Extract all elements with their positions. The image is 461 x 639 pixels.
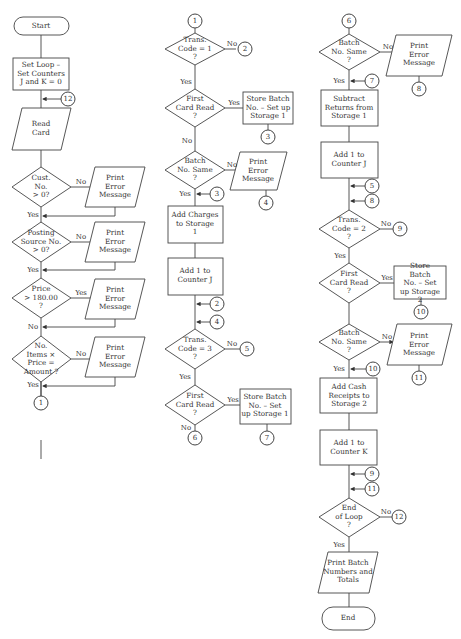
- edge-label: No: [182, 137, 192, 145]
- items-price-label: No. Items × Price = Amount ?: [24, 342, 59, 376]
- print-error-label: Print Error Message: [403, 332, 435, 358]
- edge-label: No: [382, 333, 392, 341]
- connector-6: 6: [188, 431, 203, 446]
- cust-no-label: Cust. No. > 0?: [32, 174, 51, 200]
- end-label: End: [341, 614, 355, 623]
- connector-12: 12: [392, 510, 407, 525]
- add-counter-k-label: Add 1 to Counter K: [330, 439, 367, 456]
- subtract-returns-label: Subtract Returns from Storage 1: [325, 95, 373, 121]
- connector-7: 7: [260, 431, 275, 446]
- edge-label: Yes: [27, 211, 39, 219]
- batch-same-label: Batch No. Same ?: [331, 39, 366, 65]
- edge-label: No: [28, 323, 38, 331]
- edge-label: No: [76, 233, 86, 241]
- edge-label: Yes: [334, 252, 346, 260]
- price-label: Price > 180.00 ?: [24, 285, 57, 311]
- connector-3: 3: [210, 187, 225, 202]
- edge-label: No: [381, 220, 391, 228]
- add-counter-label: Add 1 to Counter J: [332, 151, 367, 168]
- connector-9: 9: [365, 467, 380, 482]
- edge-label: No: [227, 340, 237, 348]
- edge-label: Yes: [75, 289, 87, 297]
- connector-10: 10: [366, 362, 381, 377]
- connector-2: 2: [238, 42, 253, 57]
- first-card-label: First Card Read ?: [330, 270, 369, 296]
- posting-source-label: Posting Source No. > 0?: [21, 229, 62, 255]
- connector-9: 9: [393, 222, 408, 237]
- connector-5: 5: [240, 342, 255, 357]
- print-error-label: Print Error Message: [242, 158, 274, 184]
- store-batch-label: Store Batch No. – Set up Storage 2: [400, 262, 441, 305]
- connector-4: 4: [210, 315, 225, 330]
- edge-label: No: [181, 424, 191, 432]
- edge-label: Yes: [27, 266, 39, 274]
- edge-label: Yes: [27, 381, 39, 389]
- edge-label: Yes: [381, 274, 393, 282]
- edge-label: Yes: [333, 365, 345, 373]
- read-card-label: Read Card: [32, 120, 51, 137]
- first-card-label: First Card Read ?: [176, 392, 215, 418]
- edge-label: Yes: [227, 396, 239, 404]
- add-counter-label: Add 1 to Counter J: [178, 267, 213, 284]
- connector-3: 3: [261, 130, 276, 145]
- connector-11: 11: [365, 482, 380, 497]
- trans-code-3-label: Trans. Code = 3 ?: [178, 336, 212, 362]
- edge-label: Yes: [179, 190, 191, 198]
- print-error-label: Print Error Message: [99, 229, 131, 255]
- edge-label: Yes: [228, 99, 240, 107]
- start-label: Start: [32, 22, 50, 31]
- edge-label: No: [227, 161, 237, 169]
- connector-5: 5: [365, 179, 380, 194]
- connector-8: 8: [412, 82, 427, 97]
- store-batch-label: Store Batch No. – Set up Storage 1: [241, 393, 288, 419]
- print-batch-label: Print Batch Numbers and Totals: [323, 559, 373, 585]
- connector-1: 1: [34, 396, 49, 411]
- print-error-label: Print Error Message: [99, 286, 131, 312]
- set-loop-label: Set Loop – Set Counters J and K = 0: [17, 61, 65, 87]
- add-charges-label: Add Charges to Storage 1: [171, 211, 218, 237]
- connector-4: 4: [259, 196, 274, 211]
- batch-same-label: Batch No. Same ?: [331, 329, 366, 355]
- print-error-label: Print Error Message: [99, 174, 131, 200]
- connector-6: 6: [342, 14, 357, 29]
- edge-label: No: [76, 178, 86, 186]
- store-batch-label: Store Batch No. – Set up Storage 1: [246, 95, 291, 121]
- edge-label: No: [381, 508, 391, 516]
- connector-2: 2: [210, 297, 225, 312]
- edge-label: No: [383, 43, 393, 51]
- trans-code-1-label: Trans. Code = 1 ?: [178, 36, 212, 62]
- connector-11: 11: [412, 371, 427, 386]
- connector-7: 7: [365, 74, 380, 89]
- print-error-label: Print Error Message: [403, 42, 435, 68]
- edge-label: Yes: [333, 541, 345, 549]
- first-card-label: First Card Read ?: [176, 95, 215, 121]
- add-cash-label: Add Cash Receipts to Storage 2: [329, 383, 370, 409]
- print-error-label: Print Error Message: [99, 344, 131, 370]
- connector-8: 8: [365, 194, 380, 209]
- batch-same-label: Batch No. Same ?: [177, 157, 212, 183]
- trans-code-2-label: Trans. Code = 2 ?: [332, 216, 366, 242]
- edge-label: Yes: [180, 78, 192, 86]
- edge-label: Yes: [333, 77, 345, 85]
- end-loop-label: End of Loop ?: [335, 504, 362, 530]
- connector-12: 12: [61, 92, 76, 107]
- edge-label: No: [227, 40, 237, 48]
- edge-label: Yes: [179, 373, 191, 381]
- connector-10: 10: [414, 305, 429, 320]
- edge-label: No: [76, 350, 86, 358]
- connector-1: 1: [188, 14, 203, 29]
